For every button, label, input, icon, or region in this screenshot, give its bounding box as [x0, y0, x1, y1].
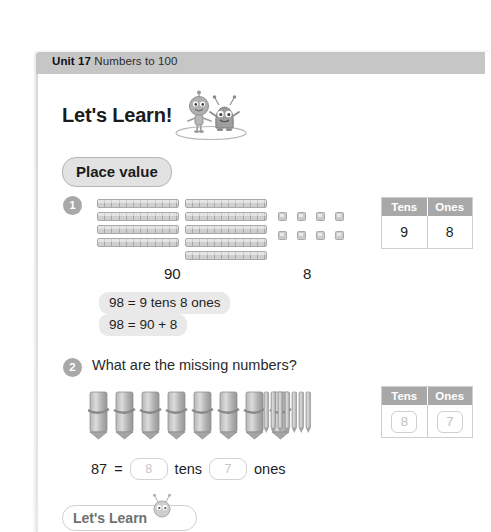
- pencil-bundle: [114, 392, 135, 439]
- bug-character-icon: [147, 492, 177, 518]
- table-2-header-ones: Ones: [428, 387, 473, 405]
- tens-answer-input[interactable]: 8: [130, 458, 168, 480]
- table-2-ones-cell: 7: [428, 405, 473, 437]
- base-ten-rod: [97, 212, 179, 221]
- bottom-section-label: Let's Learn: [73, 510, 147, 526]
- loose-pencil: [292, 392, 297, 433]
- table-1-header-ones: Ones: [428, 198, 473, 216]
- loose-pencil: [306, 392, 311, 433]
- base-ten-rod: [185, 199, 267, 208]
- loose-pencil: [299, 392, 304, 433]
- table-2-tens-input[interactable]: 8: [391, 411, 417, 433]
- base-ten-rod: [185, 238, 267, 247]
- table-2-header-tens: Tens: [382, 387, 428, 405]
- table-1-value-row: 9 8: [382, 216, 472, 248]
- pencil-bundle: [244, 392, 265, 439]
- loose-pencil: [271, 392, 276, 433]
- unit-cube: [316, 212, 325, 221]
- equation-number: 87: [91, 461, 107, 477]
- table-2-tens-cell: 8: [382, 405, 428, 437]
- place-value-table-1: Tens Ones 9 8: [381, 197, 473, 249]
- base-ten-rod: [97, 238, 179, 247]
- lets-learn-heading: Let's Learn!: [62, 104, 172, 127]
- table-2-header-row: Tens Ones: [382, 387, 472, 405]
- unit-cube: [335, 212, 344, 221]
- question-1-number-badge: 1: [63, 196, 82, 215]
- table-1-header-tens: Tens: [382, 198, 428, 216]
- pencil-bundle: [88, 392, 109, 439]
- loose-pencils-illustration: [263, 390, 311, 436]
- tens-group-label: 90: [164, 265, 181, 282]
- unit-cube: [316, 231, 325, 240]
- place-value-table-2: Tens Ones 8 7: [381, 386, 473, 438]
- unit-cube: [297, 212, 306, 221]
- base-ten-rod: [185, 251, 267, 260]
- table-2-value-row: 8 7: [382, 405, 472, 437]
- place-value-topic-pill: Place value: [62, 157, 172, 187]
- alien-character-icon: [210, 95, 239, 131]
- unit-cube: [335, 231, 344, 240]
- tens-word-label: tens: [175, 461, 202, 477]
- pencil-bundle: [192, 392, 213, 439]
- table-2-ones-input[interactable]: 7: [437, 411, 463, 433]
- ones-word-label: ones: [254, 461, 285, 477]
- loose-pencil: [278, 392, 283, 433]
- pencil-bundle: [140, 392, 161, 439]
- ones-answer-input[interactable]: 7: [209, 458, 247, 480]
- loose-pencil: [264, 392, 269, 433]
- base-ten-rod: [97, 199, 179, 208]
- loose-pencil: [285, 392, 290, 433]
- unit-cube: [278, 231, 287, 240]
- question-2-equation-row: 87 = 8 tens 7 ones: [91, 458, 285, 480]
- pencil-bundle: [218, 392, 239, 439]
- equation-expanded-form: 98 = 90 + 8: [99, 314, 187, 336]
- table-1-tens-value: 9: [382, 216, 428, 248]
- base-ten-rod: [97, 225, 179, 234]
- question-2-prompt: What are the missing numbers?: [92, 357, 297, 373]
- pencil-bundle: [166, 392, 187, 439]
- equation-equals-sign: =: [114, 461, 122, 477]
- base-ten-rod: [185, 225, 267, 234]
- page-left-edge: [36, 73, 38, 532]
- ones-group-label: 8: [303, 265, 311, 282]
- unit-header-text: Unit 17 Numbers to 100: [52, 55, 178, 67]
- equation-tens-ones: 98 = 9 tens 8 ones: [99, 292, 230, 314]
- unit-title-label: Numbers to 100: [94, 55, 177, 67]
- mascot-illustration: [168, 90, 254, 140]
- table-1-header-row: Tens Ones: [382, 198, 472, 216]
- unit-cube: [278, 212, 287, 221]
- unit-cube: [297, 231, 306, 240]
- unit-number-label: Unit 17: [52, 55, 91, 67]
- question-2-number-badge: 2: [63, 358, 82, 377]
- table-1-ones-value: 8: [428, 216, 473, 248]
- base-ten-rod: [185, 212, 267, 221]
